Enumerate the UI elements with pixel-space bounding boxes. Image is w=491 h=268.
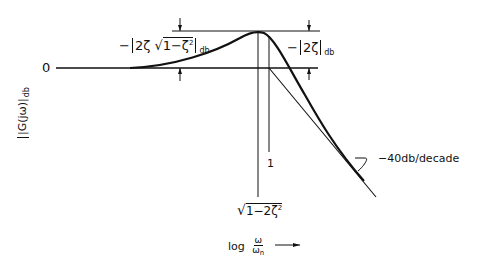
arrow-head-icon [307,68,311,74]
peak-magnitude-label-left: −2ζ √1−ζ2db [119,37,210,55]
arrow-right-icon [293,243,300,247]
peak-frequency-label: √1−2ζ2 [237,203,282,217]
arrow-head-icon [178,25,182,31]
corner-frequency-label: 1 [267,158,274,169]
slope-leader-line [355,158,367,171]
zero-db-label: 0 [42,61,50,74]
slope-label: −40db/decade [378,153,459,164]
arrow-head-icon [307,25,311,31]
y-axis-label: |G(jω)|db [17,87,31,140]
bode-plot-canvas [0,0,491,268]
peak-magnitude-label-right: −2ζdb [287,40,334,57]
x-axis-label: log ωωn [228,236,264,257]
arrow-head-icon [178,68,182,74]
